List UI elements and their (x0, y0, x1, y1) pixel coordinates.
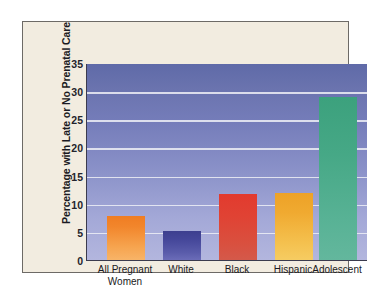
x-tick-line-1: Black (205, 264, 269, 276)
x-tick-line-2: Women (81, 276, 169, 288)
x-tick-line-1: White (149, 264, 213, 276)
y-tick-label: 20 (61, 143, 83, 153)
x-tick-label-black: Black (205, 264, 269, 276)
y-tick-label: 5 (61, 228, 83, 238)
x-tick-label-adolescent: Adolescent (305, 264, 369, 276)
plot-area (86, 64, 367, 261)
y-tick-label: 25 (61, 115, 83, 125)
x-tick-line-1: Adolescent (305, 264, 369, 276)
x-tick-label-white: White (149, 264, 213, 276)
y-axis-tick-labels: 35 30 25 20 15 10 5 0 (59, 64, 83, 261)
bar-hispanic (275, 193, 313, 261)
figure-root: Percentage with Late or No Prenatal Care… (0, 0, 377, 295)
y-tick-label: 15 (61, 172, 83, 182)
gridline-30 (87, 92, 367, 94)
y-tick-label: 10 (61, 200, 83, 210)
bar-black (219, 194, 257, 260)
bar-adolescent (319, 97, 357, 260)
y-tick-label: 0 (61, 256, 83, 266)
x-axis-tick-labels: All Pregnant Women White Black Hispanic … (86, 264, 367, 295)
y-tick-label: 35 (61, 59, 83, 69)
y-tick-label: 30 (61, 87, 83, 97)
bar-all-pregnant-women (107, 216, 145, 260)
bar-white (163, 231, 201, 260)
chart-panel: Percentage with Late or No Prenatal Care… (22, 21, 349, 273)
